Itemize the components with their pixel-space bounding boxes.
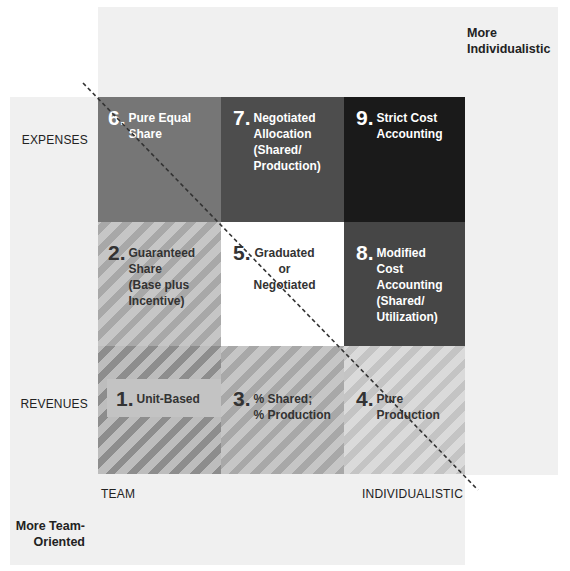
row-label-expenses: EXPENSES: [18, 133, 88, 147]
cell-line: Unit-Based: [137, 391, 200, 407]
cell-2-guaranteed-share: 2. Guaranteed Share (Base plus Incentive…: [98, 222, 221, 346]
cell-line: Incentive): [129, 293, 196, 309]
cell-line: Modified: [377, 245, 443, 261]
cell-text: % Shared; % Production: [254, 388, 331, 423]
cell-line: Accounting: [377, 126, 443, 142]
cell-line: or: [254, 261, 316, 277]
cell-line: Utilization): [377, 309, 443, 325]
more-team-oriented-label: More Team- Oriented: [10, 518, 85, 550]
cell-5-graduated-or-negotiated: 5. Graduated or Negotiated: [221, 222, 344, 346]
cell-text: Guaranteed Share (Base plus Incentive): [129, 242, 196, 309]
corner-line: More: [467, 25, 550, 41]
cell-text: Modified Cost Accounting (Shared/ Utiliz…: [377, 242, 443, 325]
cell-line: (Shared/: [377, 293, 443, 309]
column-label-team: TEAM: [101, 487, 135, 501]
cell-1-unit-based: 1. Unit-Based: [98, 346, 221, 474]
cell-line: % Production: [254, 407, 331, 423]
column-label-individualistic: INDIVIDUALISTIC: [362, 487, 463, 501]
cell-9-strict-cost-accounting: 9. Strict Cost Accounting: [344, 97, 465, 222]
cell-text: Pure Equal Share: [129, 107, 192, 142]
cell-4-pure-production: 4. Pure Production: [344, 346, 465, 474]
cell-line: Production: [377, 407, 440, 423]
cell-line: Guaranteed: [129, 245, 196, 261]
more-individualistic-label: More Individualistic: [467, 25, 550, 57]
cell-text: Strict Cost Accounting: [377, 107, 443, 142]
cell-line: Allocation: [254, 126, 321, 142]
cell-8-modified-cost-accounting: 8. Modified Cost Accounting (Shared/ Uti…: [344, 222, 465, 346]
cell-number: 3.: [233, 388, 251, 410]
cell-line: Pure Equal: [129, 110, 192, 126]
cell-line: Cost: [377, 261, 443, 277]
row-label-revenues: REVENUES: [18, 397, 88, 411]
cell-number: 1.: [116, 388, 134, 410]
corner-line: More Team-: [10, 518, 85, 534]
cell-line: Graduated: [254, 245, 316, 261]
cell-number: 7.: [233, 107, 251, 129]
cell-line: Accounting: [377, 277, 443, 293]
cell-6-pure-equal-share: 6. Pure Equal Share: [98, 97, 221, 222]
cell-number: 5.: [233, 242, 251, 264]
cell-line: Share: [129, 261, 196, 277]
compensation-model-grid: 6. Pure Equal Share 7. Negotiated Alloca…: [98, 97, 465, 474]
cell-text: Negotiated Allocation (Shared/ Productio…: [254, 107, 321, 174]
cell-number: 6.: [108, 107, 126, 129]
cell-3-percent-shared-percent-production: 3. % Shared; % Production: [221, 346, 344, 474]
cell-line: % Shared;: [254, 391, 331, 407]
cell-line: (Base plus: [129, 277, 196, 293]
cell-line: Pure: [377, 391, 440, 407]
cell-text: Pure Production: [377, 388, 440, 423]
cell-line: Share: [129, 126, 192, 142]
cell-text: Unit-Based: [137, 388, 200, 407]
cell-line: Production): [254, 158, 321, 174]
cell-number: 2.: [108, 242, 126, 264]
cell-7-negotiated-allocation: 7. Negotiated Allocation (Shared/ Produc…: [221, 97, 344, 222]
cell-number: 4.: [356, 388, 374, 410]
cell-line: Strict Cost: [377, 110, 443, 126]
cell-line: (Shared/: [254, 142, 321, 158]
cell-number: 9.: [356, 107, 374, 129]
cell-line: Negotiated: [254, 277, 316, 293]
cell-number: 8.: [356, 242, 374, 264]
corner-line: Individualistic: [467, 41, 550, 57]
cell-text: Graduated or Negotiated: [254, 242, 316, 293]
cell-line: Negotiated: [254, 110, 321, 126]
corner-line: Oriented: [10, 534, 85, 550]
